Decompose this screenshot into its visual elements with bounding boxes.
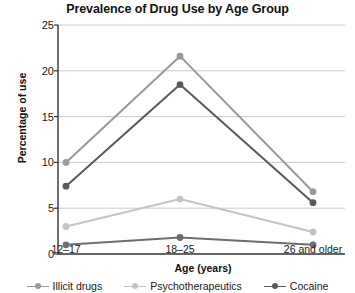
data-point — [177, 234, 184, 241]
x-tick-label: 18–25 — [165, 243, 194, 255]
data-point — [177, 196, 184, 203]
series-illicit-drugs — [63, 53, 317, 195]
series-cocaine — [63, 81, 317, 206]
series-line — [66, 56, 313, 192]
legend-label: Cocaine — [290, 280, 329, 292]
data-point — [63, 223, 70, 230]
data-point — [177, 81, 184, 88]
series-psychotherapeutics — [63, 196, 317, 236]
chart-legend: Illicit drugsPsychotherapeuticsCocaine — [0, 279, 355, 293]
x-axis-label: Age (years) — [58, 262, 348, 274]
x-tick-label: 12–17 — [51, 243, 80, 255]
data-point — [63, 159, 70, 166]
data-point — [177, 53, 184, 60]
axis-spines — [58, 25, 345, 254]
legend-label: Illicit drugs — [53, 280, 103, 292]
legend-entry[interactable]: Psychotherapeutics — [124, 280, 242, 292]
legend-marker-icon — [124, 282, 146, 291]
data-point — [310, 199, 317, 206]
chart-figure: Prevalence of Drug Use by Age Group Perc… — [0, 0, 355, 293]
data-point — [310, 229, 317, 236]
data-point — [63, 183, 70, 190]
legend-label: Psychotherapeutics — [150, 280, 242, 292]
series-line — [66, 85, 313, 203]
legend-entry[interactable]: Illicit drugs — [27, 280, 103, 292]
data-point — [310, 188, 317, 195]
legend-marker-icon — [27, 282, 49, 291]
legend-entry[interactable]: Cocaine — [264, 280, 329, 292]
x-tick-label: 26 and older — [284, 243, 342, 255]
legend-marker-icon — [264, 282, 286, 291]
series-line — [66, 199, 313, 232]
